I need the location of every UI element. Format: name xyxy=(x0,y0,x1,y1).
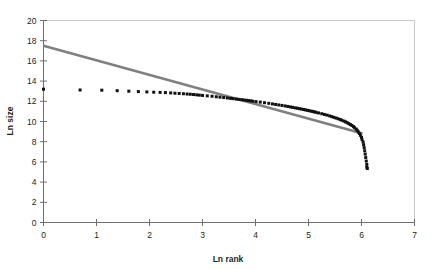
data-point xyxy=(215,95,218,98)
data-point xyxy=(291,106,294,109)
data-point xyxy=(314,111,317,114)
y-axis-tick-label: 0 xyxy=(32,218,37,228)
data-point xyxy=(79,88,82,91)
data-point xyxy=(137,90,140,93)
y-axis-tick-label: 14 xyxy=(27,76,37,86)
data-point xyxy=(364,156,367,159)
data-point xyxy=(251,100,254,103)
data-point xyxy=(255,100,258,103)
data-point xyxy=(195,93,198,96)
data-point xyxy=(218,96,221,99)
data-point xyxy=(271,102,274,105)
data-point xyxy=(211,95,214,98)
data-point xyxy=(127,90,130,93)
rank-size-scatter-chart: 02468101214161820 01234567 Ln size Ln ra… xyxy=(0,0,434,269)
x-axis-tick-label: 6 xyxy=(359,230,364,240)
data-point xyxy=(365,160,368,163)
data-point xyxy=(235,98,238,101)
chart-background xyxy=(0,0,434,269)
data-point xyxy=(201,94,204,97)
data-point xyxy=(232,97,235,100)
data-point xyxy=(274,103,277,106)
data-point xyxy=(284,104,287,107)
data-point xyxy=(145,90,148,93)
data-point xyxy=(363,149,366,152)
data-point xyxy=(152,91,155,94)
data-point xyxy=(281,104,284,107)
data-point xyxy=(173,92,176,95)
data-point xyxy=(286,105,289,108)
x-axis-tick-label: 0 xyxy=(41,230,46,240)
data-point xyxy=(100,89,103,92)
y-axis-tick-label: 10 xyxy=(27,117,37,127)
y-axis-tick-label: 2 xyxy=(32,197,37,207)
data-point xyxy=(192,93,195,96)
y-axis-tick-label: 12 xyxy=(27,96,37,106)
data-point xyxy=(186,93,189,96)
data-point xyxy=(362,143,365,146)
x-axis-title: Ln rank xyxy=(213,254,244,264)
data-point xyxy=(42,88,45,91)
x-axis-tick-label: 3 xyxy=(200,230,205,240)
data-point xyxy=(206,94,209,97)
data-point xyxy=(159,91,162,94)
data-point xyxy=(277,103,280,106)
data-point xyxy=(320,112,323,115)
data-point xyxy=(189,93,192,96)
y-axis-title: Ln size xyxy=(5,106,15,135)
data-point xyxy=(178,92,181,95)
data-point xyxy=(362,141,365,144)
y-axis-tick-label: 18 xyxy=(27,36,37,46)
data-point xyxy=(267,102,270,105)
data-point xyxy=(116,89,119,92)
y-axis-tick-label: 4 xyxy=(32,177,37,187)
y-axis-tick-label: 20 xyxy=(27,16,37,26)
data-point xyxy=(169,91,172,94)
data-point xyxy=(198,94,201,97)
x-axis-tick-label: 5 xyxy=(306,230,311,240)
data-point xyxy=(238,98,241,101)
data-point xyxy=(259,101,262,104)
data-point xyxy=(366,167,369,170)
y-axis-tick-label: 16 xyxy=(27,56,37,66)
data-point xyxy=(222,96,225,99)
data-point xyxy=(317,111,320,114)
chart-container: 02468101214161820 01234567 Ln size Ln ra… xyxy=(0,0,434,269)
x-axis-tick-label: 7 xyxy=(412,230,417,240)
data-point xyxy=(323,113,326,116)
data-point xyxy=(229,97,232,100)
data-point xyxy=(364,153,367,156)
x-axis-tick-label: 4 xyxy=(253,230,258,240)
y-axis-tick-label: 8 xyxy=(32,137,37,147)
data-point xyxy=(242,98,245,101)
data-point xyxy=(263,101,266,104)
data-point xyxy=(363,146,366,149)
data-point xyxy=(182,92,185,95)
x-axis-tick-label: 1 xyxy=(94,230,99,240)
x-axis-tick-label: 2 xyxy=(147,230,152,240)
data-point xyxy=(365,163,368,166)
data-point xyxy=(164,91,167,94)
y-axis-tick-label: 6 xyxy=(32,157,37,167)
data-point xyxy=(226,96,229,99)
data-point xyxy=(326,114,329,117)
